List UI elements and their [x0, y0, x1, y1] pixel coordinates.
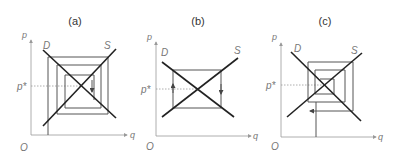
demand-label: D — [294, 43, 301, 54]
equilibrium-price-label: p* — [265, 80, 277, 91]
x-axis-label: q — [378, 132, 383, 142]
cobweb-path — [48, 57, 108, 135]
supply-label: S — [234, 45, 241, 56]
origin-label: O — [20, 142, 28, 153]
demand-label: D — [43, 40, 50, 51]
panel-a-title: (a) — [68, 15, 81, 27]
x-axis-label: q — [253, 131, 258, 141]
cobweb-figure: (a) p q O p* D S (b) p q O p* D S ( — [0, 0, 396, 158]
y-axis-label: p — [21, 30, 27, 40]
panel-b-title: (b) — [191, 15, 204, 27]
x-axis-label: q — [130, 130, 135, 140]
cobweb-path — [308, 62, 353, 111]
origin-label: O — [146, 141, 154, 152]
panel-c: (c) p q O p* D S — [265, 15, 383, 152]
supply-curve — [287, 53, 362, 117]
equilibrium-price-label: p* — [16, 81, 28, 92]
y-axis-label: p — [146, 32, 152, 42]
panel-a: (a) p q O p* D S — [16, 15, 135, 153]
origin-label: O — [271, 141, 279, 152]
y-axis-label: p — [271, 32, 277, 42]
panel-c-title: (c) — [319, 15, 332, 27]
equilibrium-price-label: p* — [140, 84, 152, 95]
supply-label: S — [104, 40, 111, 51]
supply-label: S — [351, 45, 358, 56]
panel-b: (b) p q O p* D S — [140, 15, 258, 152]
demand-label: D — [161, 47, 168, 58]
